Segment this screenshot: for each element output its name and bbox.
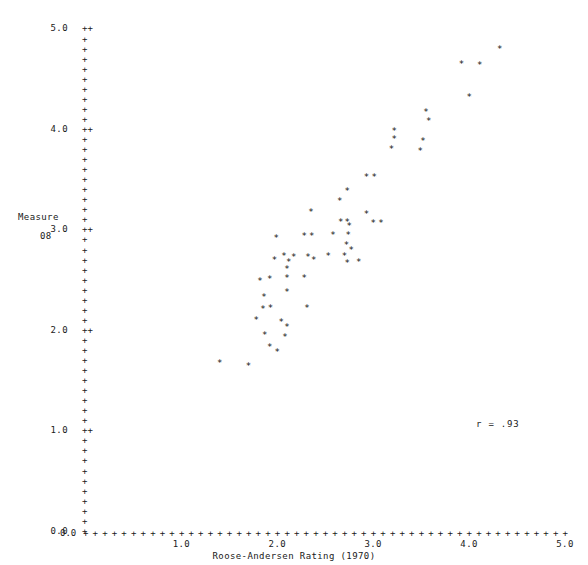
y-axis-minor-tick: +	[0, 455, 96, 465]
data-point: *	[266, 343, 273, 352]
x-axis-tick-label: 5.0	[556, 538, 573, 550]
y-axis-minor-tick: +	[0, 214, 96, 224]
y-axis-minor-tick: +	[0, 305, 96, 315]
y-axis-tick-glyph: +	[82, 405, 87, 415]
y-axis-tick-glyph: +	[82, 415, 87, 425]
y-axis-minor-tick: +	[0, 134, 96, 144]
data-point: *	[308, 232, 315, 241]
data-point: *	[310, 256, 317, 265]
y-axis-minor-tick: +	[0, 194, 96, 204]
y-axis-tick-glyph: +	[82, 154, 87, 164]
data-point: *	[290, 253, 297, 262]
data-point: *	[283, 265, 290, 274]
data-point: *	[370, 219, 377, 228]
data-point: *	[281, 333, 288, 342]
data-point: *	[257, 277, 264, 286]
y-axis-tick-glyph: +	[82, 104, 87, 114]
y-axis-tick-glyph: ++	[82, 23, 93, 33]
y-axis-minor-tick: +	[0, 64, 96, 74]
y-axis-tick-glyph: +	[82, 164, 87, 174]
y-axis-tick-glyph: +	[82, 385, 87, 395]
data-point: *	[346, 222, 353, 231]
data-point: *	[259, 305, 266, 314]
y-axis-minor-tick: +	[0, 445, 96, 455]
data-point: *	[336, 197, 343, 206]
y-axis-tick-glyph: +	[82, 265, 87, 275]
y-axis-tick-glyph: +	[82, 194, 87, 204]
y-axis-minor-tick: +	[0, 255, 96, 265]
data-point: *	[325, 252, 332, 261]
y-axis-minor-tick: +	[0, 245, 96, 255]
data-point: *	[329, 231, 336, 240]
y-axis-minor-tick: +	[0, 486, 96, 496]
x-axis-tick-label: 2.0	[269, 538, 286, 550]
y-axis-minor-tick: +	[0, 466, 96, 476]
data-point: *	[307, 208, 314, 217]
data-point: *	[371, 173, 378, 182]
data-point: *	[274, 348, 281, 357]
data-point: *	[245, 362, 252, 371]
y-axis-tick-glyph: +	[82, 134, 87, 144]
y-axis-tick-glyph: +	[82, 305, 87, 315]
data-point: *	[476, 61, 483, 70]
data-point: *	[278, 318, 285, 327]
data-point: *	[283, 288, 290, 297]
data-point: *	[267, 304, 274, 313]
y-axis-tick-glyph: +	[82, 84, 87, 94]
y-axis-tick-glyph: +	[82, 445, 87, 455]
x-axis-tick-label: 3.0	[364, 538, 381, 550]
correlation-annotation: r = .93	[476, 419, 520, 430]
data-point: *	[301, 232, 308, 241]
y-axis-tick-glyph: +	[82, 34, 87, 44]
data-point: *	[417, 147, 424, 156]
y-axis-minor-tick: +	[0, 104, 96, 114]
data-point: *	[261, 331, 268, 340]
y-axis-minor-tick: +	[0, 54, 96, 64]
y-axis-minor-tick: +	[0, 144, 96, 154]
data-point: *	[458, 60, 465, 69]
y-axis-tick-glyph: +	[82, 245, 87, 255]
y-axis-minor-tick: +	[0, 395, 96, 405]
data-point: *	[344, 259, 351, 268]
y-axis-minor-tick: +	[0, 285, 96, 295]
data-point: *	[344, 187, 351, 196]
y-axis-minor-tick: +	[0, 496, 96, 506]
y-axis-minor-tick: +	[0, 94, 96, 104]
y-axis-tick-glyph: +	[82, 295, 87, 305]
y-axis-tick-glyph: +	[82, 516, 87, 526]
y-axis-tick-glyph: +	[82, 345, 87, 355]
y-axis-tick-glyph: +	[82, 335, 87, 345]
y-axis-tick-glyph: +	[82, 74, 87, 84]
y-axis-tick-label: 1.0	[51, 425, 68, 435]
scatter-plot-figure: Measure 08 5.0+++++++++++4.0+++++++++++3…	[0, 0, 588, 565]
y-axis-minor-tick: +	[0, 44, 96, 54]
y-axis-minor-tick: +	[0, 506, 96, 516]
y-axis-minor-tick: +	[0, 335, 96, 345]
y-axis-tick-glyph: +	[82, 355, 87, 365]
y-axis-minor-tick: +	[0, 365, 96, 375]
data-point: *	[285, 258, 292, 267]
data-point: *	[304, 253, 311, 262]
x-axis-tick-labels: 1.02.03.04.05.0	[0, 538, 588, 550]
data-point: *	[344, 218, 351, 227]
y-axis-tick-glyph: +	[82, 496, 87, 506]
y-axis-minor-tick: +	[0, 415, 96, 425]
y-axis-tick-glyph: +	[82, 275, 87, 285]
y-axis-tick-glyph: +	[82, 64, 87, 74]
y-axis-tick-glyph: +	[82, 375, 87, 385]
y-axis-tick-glyph: +	[82, 144, 87, 154]
data-point: *	[337, 218, 344, 227]
data-point: *	[281, 252, 288, 261]
y-axis-tick-glyph: +	[82, 184, 87, 194]
y-axis-tick-glyph: +	[82, 476, 87, 486]
y-axis-minor-tick: +	[0, 405, 96, 415]
y-axis-tick-glyph: +	[82, 365, 87, 375]
data-point: *	[341, 252, 348, 261]
data-point: *	[271, 256, 278, 265]
data-point: *	[391, 127, 398, 136]
y-axis-minor-tick: +	[0, 516, 96, 526]
data-point: *	[273, 234, 280, 243]
y-axis-tick-glyph: +	[82, 435, 87, 445]
y-axis-minor-tick: +	[0, 174, 96, 184]
y-axis-tick-glyph: +	[82, 234, 87, 244]
